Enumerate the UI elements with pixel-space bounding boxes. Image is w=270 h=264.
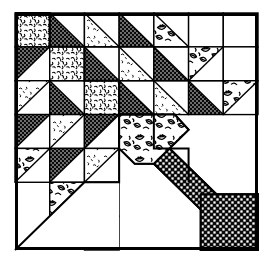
- unit-r2c2: [50, 47, 85, 81]
- checkered-corner-square-top: [201, 194, 258, 250]
- unit-r1c7: [223, 13, 258, 47]
- quilt-block-svg: [0, 0, 270, 264]
- unit-r3c3: [84, 81, 119, 115]
- unit-r1c6: [189, 13, 224, 47]
- quilt-block-figure: [0, 0, 270, 264]
- unit-r1c1: [15, 13, 50, 47]
- unit-r2c7: [223, 47, 258, 81]
